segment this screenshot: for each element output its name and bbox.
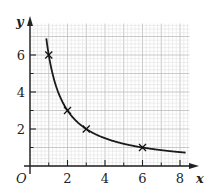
x-tick-label: 2 (63, 171, 71, 186)
y-tick-label: 2 (17, 122, 25, 137)
y-axis-label: y (15, 14, 25, 29)
y-tick-label: 4 (17, 85, 25, 100)
grid (30, 24, 189, 166)
marked-points (45, 52, 146, 152)
origin-label: O (16, 171, 27, 186)
x-tick-label: 6 (138, 171, 146, 186)
x-axis-label: x (195, 171, 204, 186)
y-tick-label: 6 (17, 48, 25, 63)
y-axis-arrow-icon (27, 16, 33, 26)
chart: 2468246 x y O (0, 0, 210, 191)
x-axis-arrow-icon (189, 163, 199, 169)
x-tick-label: 4 (101, 171, 109, 186)
x-tick-label: 8 (176, 171, 184, 186)
